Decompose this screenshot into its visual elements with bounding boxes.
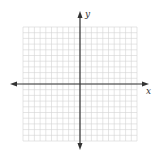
coordinate-plane: [0, 0, 158, 157]
x-axis-left-arrow-icon: [10, 82, 17, 87]
x-axis-label: x: [146, 87, 151, 96]
y-axis: [78, 11, 83, 150]
y-axis-down-arrow-icon: [78, 143, 83, 150]
y-axis-up-arrow-icon: [78, 11, 83, 18]
y-axis-label: y: [85, 10, 90, 19]
